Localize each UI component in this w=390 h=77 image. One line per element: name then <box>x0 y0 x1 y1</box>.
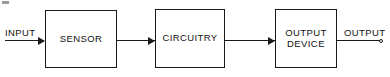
block-circuitry-label: CIRCUITRY <box>162 33 217 44</box>
input-port-label: INPUT <box>5 27 36 38</box>
block-diagram: INPUT SENSOR CIRCUITRY OUTPUT DEVICE OUT… <box>0 0 390 77</box>
block-sensor: SENSOR <box>45 10 117 68</box>
circuitry-to-output-device-arrowhead <box>268 37 275 45</box>
sensor-to-circuitry-arrowhead <box>148 37 155 45</box>
output-wire <box>337 40 381 41</box>
output-terminal-dot <box>379 39 383 43</box>
output-port-label: OUTPUT <box>344 27 385 38</box>
block-output-device: OUTPUT DEVICE <box>275 9 337 68</box>
block-output-device-label: OUTPUT DEVICE <box>285 28 326 50</box>
scan-artifact-speck <box>2 1 9 4</box>
block-sensor-label: SENSOR <box>60 34 103 45</box>
input-arrowhead <box>38 37 45 45</box>
block-circuitry: CIRCUITRY <box>155 9 225 68</box>
